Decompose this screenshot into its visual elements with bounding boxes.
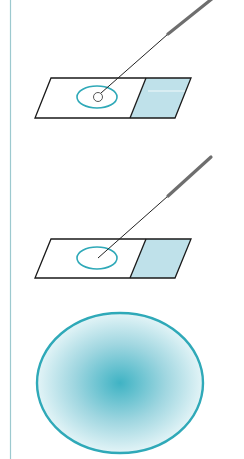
- magnified-smear: [37, 313, 203, 453]
- loop-handle: [168, 157, 211, 196]
- panel-step-3: [37, 313, 203, 453]
- drop-outline: [77, 86, 117, 108]
- slide-label-area: [130, 78, 191, 118]
- panel-step-2: [35, 157, 211, 278]
- loop-icon: [94, 93, 103, 102]
- smear-outline: [77, 247, 117, 269]
- loop-handle: [168, 0, 213, 34]
- smear-diagram: [0, 0, 244, 459]
- panel-step-1: [35, 0, 213, 118]
- slide-label-area: [130, 239, 191, 278]
